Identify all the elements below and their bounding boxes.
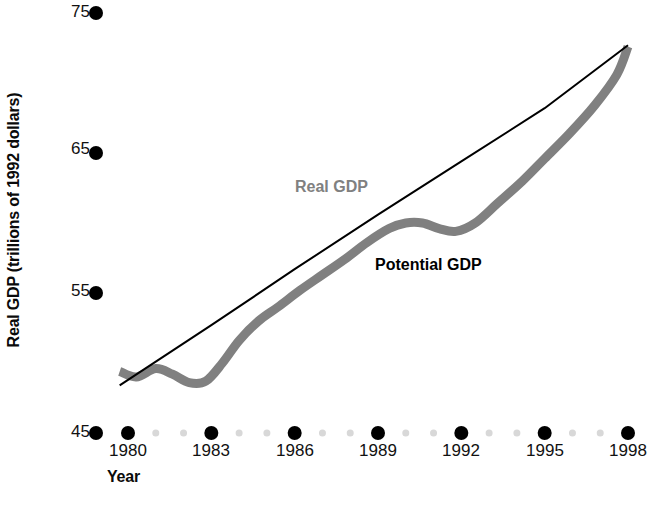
gdp-chart-figure: Real GDP (trillions of 1992 dollars) Yea… [0,0,655,519]
plot-area [0,0,655,519]
real-gdp-line [120,47,628,384]
y-axis-tick-dots [89,6,103,300]
x-axis-major-tick-dots [89,426,635,440]
potential-gdp-line [120,45,628,385]
